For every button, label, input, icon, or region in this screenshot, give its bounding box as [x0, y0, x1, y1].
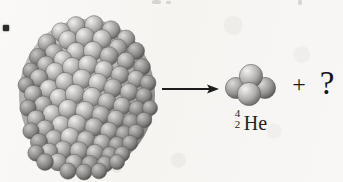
atomic-number: 2 — [235, 119, 241, 130]
reaction-arrow-icon — [161, 79, 221, 99]
parent-nucleus-illustration — [16, 15, 160, 173]
nuclide-numbers: 4 2 — [235, 110, 244, 130]
helium-nuclide-label: 4 2 He — [222, 110, 280, 134]
page-bleed-through — [0, 0, 343, 9]
plus-sign: + — [289, 72, 309, 96]
question-mark-glyph: ? — [314, 65, 340, 101]
element-symbol: He — [244, 112, 268, 134]
helium-nucleus-illustration — [223, 62, 279, 108]
ink-speck — [3, 25, 9, 31]
helium-product-group: 4 2 He — [222, 62, 280, 140]
unknown-product-question-mark: ? — [314, 65, 340, 101]
plus-sign-glyph: + — [289, 72, 309, 96]
alpha-decay-figure: 4 2 He + ? — [0, 0, 343, 182]
